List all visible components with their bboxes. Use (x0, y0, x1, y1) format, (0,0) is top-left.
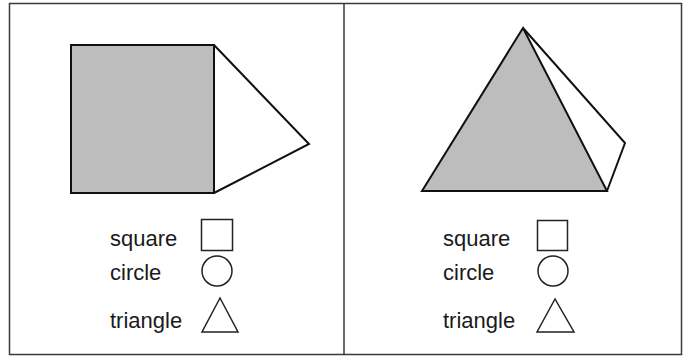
side-triangle (214, 45, 309, 193)
figure-pyramid (422, 28, 625, 191)
figure-square-with-triangle (71, 45, 309, 193)
circle-icon[interactable] (202, 256, 232, 286)
option-label-triangle: triangle (443, 310, 515, 332)
worksheet (0, 0, 691, 361)
option-label-circle: circle (110, 262, 161, 284)
triangle-icon[interactable] (202, 298, 238, 332)
option-label-square: square (443, 228, 510, 250)
option-label-triangle: triangle (110, 310, 182, 332)
shaded-square (71, 45, 214, 193)
circle-icon[interactable] (538, 256, 568, 286)
square-icon[interactable] (202, 220, 233, 251)
shaded-triangle-face (422, 28, 607, 191)
option-label-square: square (110, 228, 177, 250)
option-label-circle: circle (443, 262, 494, 284)
triangle-icon[interactable] (537, 299, 574, 332)
square-icon[interactable] (538, 221, 568, 251)
